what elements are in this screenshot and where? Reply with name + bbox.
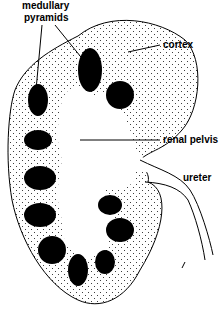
label-pyramids: pyramids bbox=[24, 12, 68, 24]
label-cortex: cortex bbox=[163, 39, 193, 51]
label-renal-pelvis: renal pelvis bbox=[163, 134, 218, 146]
kidney-diagram: medullary pyramids cortex renal pelvis u… bbox=[0, 0, 221, 312]
label-medullary: medullary bbox=[22, 0, 69, 12]
label-ureter: ureter bbox=[183, 172, 211, 184]
